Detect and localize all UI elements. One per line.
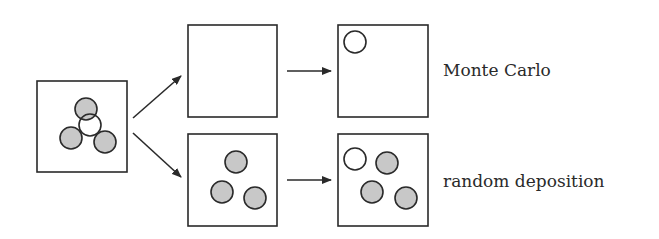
deposited-particle-circle [376,152,398,174]
deposited-particle-circle [361,181,383,203]
initial-box [37,81,127,172]
deposited-particle-circle [395,187,417,209]
random-deposition-branch [133,133,428,226]
deposited-particle-circle [211,181,233,203]
deposited-particle-circle [94,131,116,153]
deposited-particle-circle [244,187,266,209]
intermediate-box [188,134,277,226]
branch-arrow-icon [133,133,181,177]
initial-configuration-box [37,81,127,172]
intermediate-box [188,25,277,117]
monte-carlo-label: Monte Carlo [443,62,551,79]
new-particle-circle [344,148,366,170]
random-deposition-label: random deposition [443,173,605,190]
branch-arrow-icon [133,76,181,118]
new-particle-circle [344,31,366,53]
deposited-particle-circle [225,151,247,173]
deposited-particle-circle [60,127,82,149]
deposited-particle-circle [75,98,97,120]
monte-carlo-branch [133,25,428,118]
diagram-canvas [0,0,659,239]
